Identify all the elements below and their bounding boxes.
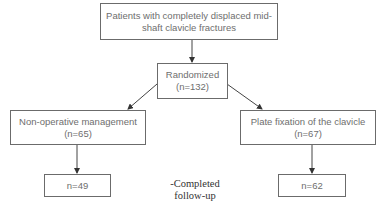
box-non-operative-followup: n=49	[44, 174, 111, 197]
flowchart: Patients with completely displaced mid- …	[0, 0, 381, 206]
box-plate-fixation: Plate fixation of the clavicle (n=67)	[240, 110, 376, 145]
box-plate-fixation-followup: n=62	[278, 174, 346, 197]
box-eligible-patients: Patients with completely displaced mid- …	[100, 3, 278, 40]
non-operative-label: Non-operative management	[19, 116, 137, 128]
plate-fixation-label: Plate fixation of the clavicle	[251, 116, 366, 128]
note-line2: follow-up	[160, 190, 230, 202]
randomized-count: (n=132)	[176, 81, 209, 93]
completed-followup-note: -Completed follow-up	[160, 178, 230, 202]
eligible-line1: Patients with completely displaced mid-	[106, 10, 272, 22]
randomized-label: Randomized	[166, 69, 219, 81]
plate-fixation-followup-count: n=62	[301, 180, 322, 192]
arrow-randomized-to-left	[128, 84, 157, 109]
arrow-randomized-to-right	[227, 84, 262, 109]
eligible-line2: shaft clavicle fractures	[142, 22, 236, 34]
box-non-operative: Non-operative management (n=65)	[10, 110, 146, 145]
non-operative-followup-count: n=49	[67, 180, 88, 192]
box-randomized: Randomized (n=132)	[157, 63, 228, 99]
non-operative-count: (n=65)	[64, 128, 92, 140]
note-line1: -Completed	[160, 178, 230, 190]
plate-fixation-count: (n=67)	[294, 128, 322, 140]
